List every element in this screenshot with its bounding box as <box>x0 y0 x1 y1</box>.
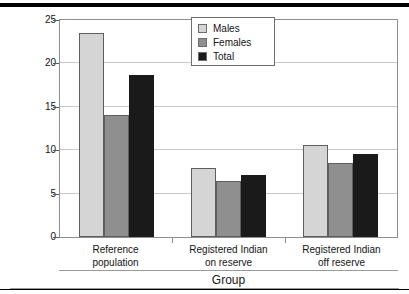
bar-group <box>285 20 397 237</box>
legend-label: Females <box>213 37 251 48</box>
x-axis-tick-mark <box>172 238 173 243</box>
x-axis-separator-rule <box>59 270 398 271</box>
bar-females[interactable] <box>328 163 353 237</box>
bottom-divider-rule <box>0 289 409 290</box>
x-axis-category-labels: ReferencepopulationRegistered Indianon r… <box>59 244 398 272</box>
y-axis-tick-mark <box>53 63 59 64</box>
bar-females[interactable] <box>104 115 129 237</box>
legend-swatch-icon <box>198 52 207 61</box>
y-axis-tick-mark <box>53 107 59 108</box>
bar-group <box>60 20 172 237</box>
legend-item-females[interactable]: Females <box>198 36 270 49</box>
x-axis-title: Group <box>59 272 398 288</box>
x-axis-category-label: Referencepopulation <box>59 244 172 272</box>
y-axis-tick-mark <box>53 20 59 21</box>
legend-swatch-icon <box>198 38 207 47</box>
top-divider-rule <box>0 3 409 7</box>
chart-legend: MalesFemalesTotal <box>191 17 275 66</box>
bar-males[interactable] <box>303 145 328 237</box>
bar-females[interactable] <box>216 181 241 237</box>
x-axis-category-label-line: population <box>59 257 172 270</box>
x-axis-category-label-line: Registered Indian <box>285 244 398 257</box>
x-axis-category-label-line: Reference <box>59 244 172 257</box>
x-axis-category-label-line: off reserve <box>285 257 398 270</box>
legend-label: Males <box>213 23 240 34</box>
bar-total[interactable] <box>129 75 154 237</box>
y-axis-tick-mark <box>53 194 59 195</box>
x-axis-tick-mark <box>285 238 286 243</box>
x-axis-category-label-line: Registered Indian <box>172 244 285 257</box>
legend-label: Total <box>213 51 234 62</box>
legend-item-total[interactable]: Total <box>198 50 270 63</box>
bar-males[interactable] <box>191 168 216 237</box>
legend-swatch-icon <box>198 24 207 33</box>
bar-males[interactable] <box>79 33 104 237</box>
x-axis-category-label: Registered Indianoff reserve <box>285 244 398 272</box>
legend-item-males[interactable]: Males <box>198 22 270 35</box>
y-axis-tick-mark <box>53 150 59 151</box>
figure-container: Income ($000) 0510152025 MalesFemalesTot… <box>0 0 409 294</box>
x-axis-category-label: Registered Indianon reserve <box>172 244 285 272</box>
x-axis-category-label-line: on reserve <box>172 257 285 270</box>
bar-total[interactable] <box>241 175 266 237</box>
bar-total[interactable] <box>353 154 378 237</box>
